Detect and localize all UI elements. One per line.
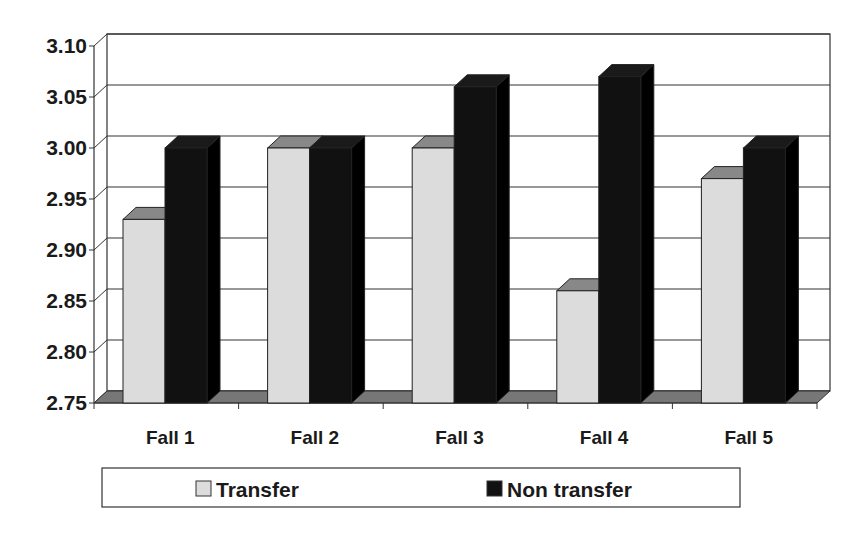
legend-label: Transfer [216,478,299,501]
y-tick-label: 2.80 [46,340,87,363]
legend-swatch [487,481,502,496]
x-tick-label: Fall 3 [435,427,484,448]
legend-label: Non transfer [507,478,632,501]
bar-non-transfer [599,65,654,403]
y-tick-label: 3.00 [46,136,87,159]
x-tick-label: Fall 2 [291,427,340,448]
x-tick-label: Fall 5 [724,427,773,448]
legend-swatch [196,481,211,496]
x-tick-label: Fall 1 [146,427,195,448]
y-tick-label: 2.90 [46,238,87,261]
bar-non-transfer [743,136,798,403]
legend: TransferNon transfer [102,468,740,507]
bar-non-transfer [165,136,220,403]
bar-chart: 2.752.802.852.902.953.003.053.10Fall 1Fa… [0,0,863,541]
y-tick-label: 2.75 [46,391,87,414]
y-tick-label: 2.95 [46,187,87,210]
y-tick-label: 3.05 [46,85,87,108]
x-tick-label: Fall 4 [580,427,629,448]
y-tick-label: 2.85 [46,289,87,312]
bar-non-transfer [310,136,365,403]
y-tick-label: 3.10 [46,34,87,57]
bar-non-transfer [454,75,509,403]
